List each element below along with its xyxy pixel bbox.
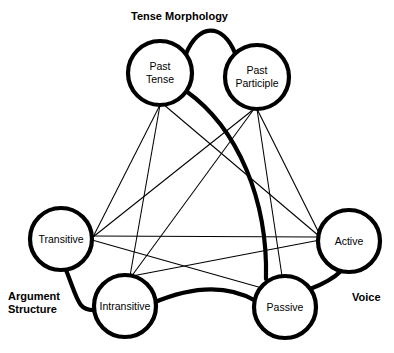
thick-link-layer (66, 31, 341, 310)
thin-link-past-tense-active (163, 104, 319, 236)
node-intransitive-circle[interactable] (94, 275, 156, 337)
diagram-canvas: Past Tense Past Participle Transitive Ac… (0, 0, 394, 353)
group-label-argument-structure-line2: Structure (8, 303, 57, 315)
node-past-participle-circle[interactable] (225, 45, 289, 109)
group-label-argument-structure-line1: Argument (8, 290, 60, 302)
node-active-circle[interactable] (318, 210, 380, 272)
node-past-tense-circle[interactable] (128, 41, 192, 105)
thin-link-past-participle-intransitive (131, 109, 254, 277)
thick-link-past-tense-past-participle (186, 31, 235, 54)
node-layer: Past Tense Past Participle Transitive Ac… (30, 41, 380, 338)
thin-link-past-tense-intransitive (130, 105, 160, 276)
node-passive[interactable]: Passive (254, 276, 316, 338)
thick-link-transitive-intransitive (66, 270, 95, 310)
thick-link-passive-active (310, 271, 341, 289)
thick-link-intransitive-passive (153, 289, 256, 303)
node-past-tense[interactable]: Past Tense (128, 41, 192, 105)
node-passive-circle[interactable] (254, 276, 316, 338)
group-label-argument-structure: ArgumentStructure (8, 290, 60, 317)
thin-link-transitive-active (92, 236, 318, 237)
group-label-tense-morphology: Tense Morphology (131, 10, 228, 23)
node-past-participle[interactable]: Past Participle (225, 45, 289, 109)
node-active[interactable]: Active (318, 210, 380, 272)
node-intransitive[interactable]: Intransitive (94, 275, 156, 337)
thin-link-layer (92, 104, 320, 288)
node-transitive-circle[interactable] (30, 208, 92, 270)
thin-link-past-tense-transitive (93, 105, 160, 237)
node-transitive[interactable]: Transitive (30, 208, 92, 270)
thin-link-past-participle-transitive (93, 109, 254, 237)
group-label-voice: Voice (352, 291, 381, 304)
